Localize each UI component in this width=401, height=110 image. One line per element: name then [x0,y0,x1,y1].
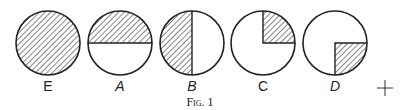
label-d: D [330,78,340,94]
figure-diagram [0,0,401,110]
figure-caption: Fig. 1 [186,95,213,110]
circle-a [88,11,152,75]
circle-d [303,11,367,75]
circle-e [16,11,80,75]
label-a: A [115,78,124,94]
cross-marker [377,80,393,96]
circle-b [160,11,224,75]
label-b: B [187,78,196,94]
circle-c [231,11,295,75]
label-c: C [258,78,268,94]
label-e: E [43,78,52,94]
